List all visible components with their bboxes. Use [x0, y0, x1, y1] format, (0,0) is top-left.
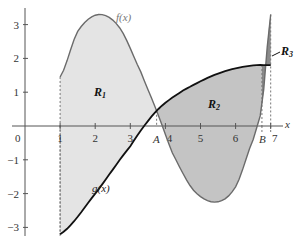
y-tick-label: −2 [7, 188, 19, 200]
f-label: f(x) [116, 11, 132, 24]
x-tick-label: 2 [92, 132, 98, 144]
x-tick-label: 7 [272, 132, 278, 144]
B-label: B [259, 133, 266, 145]
R3-label: R3 [280, 44, 293, 59]
x-tick-label: 0 [15, 132, 21, 144]
y-tick-label: −1 [7, 154, 19, 166]
y-tick-label: 3 [14, 19, 20, 31]
y-tick-label: −3 [7, 221, 19, 233]
y-tick-label: 1 [14, 86, 20, 98]
x-tick-label: 6 [233, 132, 239, 144]
y-tick-label: 2 [14, 52, 20, 64]
x-tick-label: 1 [57, 132, 63, 144]
g-label: g(x) [92, 182, 110, 195]
x-tick-label: 5 [198, 132, 204, 144]
x-axis-label: x [284, 118, 290, 130]
region-r1 [60, 14, 157, 234]
R3-arrow [272, 52, 280, 56]
A-label: A [152, 133, 160, 145]
region-r2 [157, 65, 262, 202]
area-between-curves-diagram: 321−1−2−301234567 f(x) g(x) x A B R1 R2 … [0, 0, 303, 242]
